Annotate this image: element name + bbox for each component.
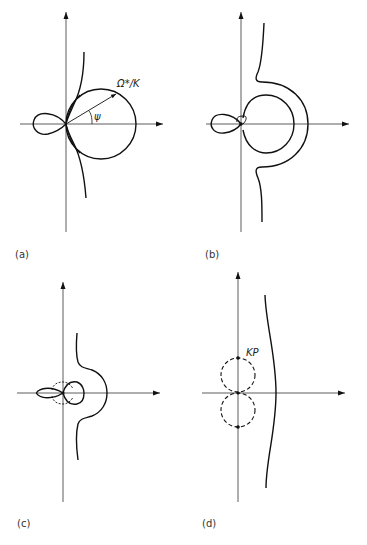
panel-b bbox=[206, 12, 349, 232]
panel-a-radius-arrow bbox=[66, 94, 116, 124]
panel-d-point-origin bbox=[236, 391, 239, 394]
panel-d bbox=[202, 272, 345, 502]
panel-d-point-kp bbox=[236, 356, 240, 360]
panel-c-label: (c) bbox=[17, 518, 30, 529]
panel-a-angle-label: ψ bbox=[94, 111, 101, 122]
panel-a-label: (a) bbox=[15, 249, 29, 260]
figure-canvas bbox=[0, 0, 367, 545]
panel-d-label: (d) bbox=[202, 518, 216, 529]
panel-a-inner-arc-lower bbox=[66, 124, 80, 153]
panel-b-outer-curve bbox=[256, 23, 308, 222]
panel-c-origin-dot bbox=[61, 391, 64, 394]
panel-a bbox=[20, 12, 163, 232]
panel-c-bulge-curve bbox=[76, 333, 107, 460]
panel-a-curve bbox=[66, 52, 86, 198]
panel-d-point-lower bbox=[236, 425, 240, 429]
panel-a-radius-label: Ω*/K bbox=[117, 78, 140, 89]
panel-c bbox=[17, 282, 160, 502]
panel-b-origin-dot bbox=[239, 122, 243, 126]
panel-b-label: (b) bbox=[205, 249, 219, 260]
panel-d-kp-label: KP bbox=[246, 347, 259, 358]
panel-a-angle-arc bbox=[89, 111, 92, 124]
panel-d-wavy-curve bbox=[265, 295, 276, 488]
